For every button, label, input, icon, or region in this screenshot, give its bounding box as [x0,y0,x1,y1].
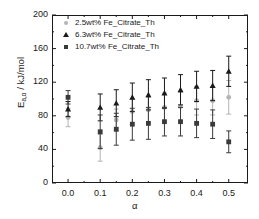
legend-item: 2.5wt% Fe_Citrate_Th [60,17,159,28]
marker-square [226,139,231,144]
marker-square [162,119,167,124]
marker-triangle [145,92,151,97]
data-point-group [162,107,167,136]
x-axis-title: α [132,200,138,211]
data-point-group [178,75,184,105]
data-point-group [66,91,71,104]
activation-energy-chart: 04080120160200 0.00.10.20.30.40.5 Ea,α /… [0,0,259,219]
marker-triangle [65,106,71,111]
x-tick-label: 0.1 [85,188,115,198]
legend-label: 6.3wt% Fe_Citrate_Th [75,30,155,39]
marker-triangle [97,104,103,109]
data-point-group [129,83,135,112]
marker-triangle [113,100,119,105]
y-axis-title-subscript: a,α [20,92,27,101]
legend-marker-circle-icon [64,21,68,25]
marker-triangle [210,83,216,88]
marker-square [130,122,135,127]
marker-circle [226,95,231,100]
marker-square [178,119,183,124]
marker-square [98,129,103,134]
data-point-group [145,80,151,110]
marker-square [114,127,119,132]
x-tick-label: 0.2 [117,188,147,198]
y-axis-title-symbol: E [15,102,26,108]
data-point-group [210,70,216,100]
x-tick-label: 0.3 [149,188,179,198]
data-point-group [98,115,103,149]
legend-marker-square-icon [64,45,68,49]
data-point-group [114,113,119,145]
legend-circle-icon [60,21,72,25]
marker-triangle [178,87,184,92]
y-axis-title-unit: / kJ/mol [15,57,26,92]
marker-square [194,121,199,126]
data-point-group [178,107,183,136]
x-tick-label: 0.0 [53,188,83,198]
legend-label: 2.5wt% Fe_Citrate_Th [75,18,155,27]
data-point-group [226,131,231,153]
legend-square-icon [60,45,72,49]
legend-label: 10.7wt% Fe_Citrate_Th [75,42,159,51]
data-point-group [226,56,232,86]
marker-square [210,122,215,127]
legend-item: 10.7wt% Fe_Citrate_Th [60,41,159,52]
data-point-group [146,107,151,139]
data-point-group [194,109,199,138]
y-tick-label: 200 [22,9,48,19]
marker-square [146,121,151,126]
y-tick-label: 0 [22,177,48,187]
x-tick-label: 0.4 [182,188,212,198]
marker-triangle [226,68,232,73]
data-point-group [210,110,215,139]
y-tick-label: 40 [22,143,48,153]
marker-triangle [129,94,135,99]
y-axis-title: Ea,α / kJ/mol [15,34,28,130]
legend-marker-triangle-icon [63,32,69,37]
legend-triangle-icon [60,32,72,37]
marker-square [66,95,71,100]
legend-item: 6.3wt% Fe_Citrate_Th [60,29,159,40]
x-tick-label: 0.5 [214,188,244,198]
data-point-group [113,90,119,117]
chart-legend: 2.5wt% Fe_Citrate_Th6.3wt% Fe_Citrate_Th… [60,17,159,53]
